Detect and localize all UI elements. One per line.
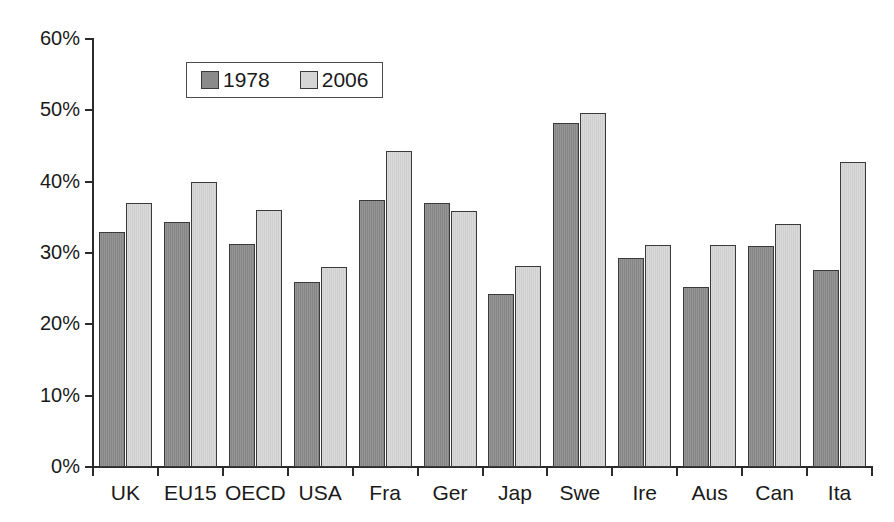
- bar-ire-1978: [618, 258, 644, 467]
- y-axis-tick-mark: [85, 181, 93, 183]
- bar-swe-1978: [553, 123, 579, 467]
- bar-ita-2006: [840, 162, 866, 467]
- x-axis-label-fra: Fra: [353, 481, 418, 505]
- bar-jap-1978: [488, 294, 514, 467]
- bar-oecd-1978: [229, 244, 255, 467]
- y-axis-tick-label: 10%: [40, 385, 80, 405]
- y-axis-tick-label: 60%: [40, 28, 80, 48]
- x-axis-label-oecd: OECD: [223, 481, 288, 505]
- bar-jap-2006: [515, 266, 541, 467]
- y-axis-tick-mark: [85, 109, 93, 111]
- bar-eu15-1978: [164, 222, 190, 467]
- bar-can-2006: [775, 224, 801, 467]
- x-axis-label-ger: Ger: [418, 481, 483, 505]
- bar-eu15-2006: [191, 182, 217, 467]
- bar-aus-1978: [683, 287, 709, 467]
- legend: 1978 2006: [186, 62, 383, 98]
- x-axis-tick-mark: [741, 467, 743, 476]
- bar-aus-2006: [710, 245, 736, 467]
- legend-label-1978: 1978: [223, 69, 270, 91]
- y-axis-tick-label: 0%: [51, 456, 80, 476]
- bar-uk-2006: [126, 203, 152, 467]
- y-axis-tick-label: 50%: [40, 99, 80, 119]
- x-axis-label-ita: Ita: [807, 481, 872, 505]
- y-axis-tick-mark: [85, 38, 93, 40]
- bar-ger-2006: [451, 211, 477, 467]
- legend-entry-1978: 1978: [201, 69, 270, 91]
- x-axis-tick-mark: [806, 467, 808, 476]
- bar-ire-2006: [645, 245, 671, 467]
- x-axis-tick-mark: [92, 467, 94, 476]
- y-axis-tick-mark: [85, 323, 93, 325]
- legend-swatch-icon-2006: [300, 71, 318, 89]
- x-axis-label-aus: Aus: [677, 481, 742, 505]
- x-axis-label-uk: UK: [93, 481, 158, 505]
- y-axis-tick-mark: [85, 395, 93, 397]
- x-axis-tick-mark: [482, 467, 484, 476]
- x-axis-tick-mark: [546, 467, 548, 476]
- bar-swe-2006: [580, 113, 606, 467]
- bar-fra-1978: [359, 200, 385, 468]
- legend-entry-2006: 2006: [300, 69, 369, 91]
- bar-ita-1978: [813, 270, 839, 467]
- bar-fra-2006: [386, 151, 412, 467]
- x-axis-tick-mark: [222, 467, 224, 476]
- plot-area: [93, 39, 872, 467]
- x-axis-label-can: Can: [742, 481, 807, 505]
- bar-can-1978: [748, 246, 774, 467]
- x-axis-label-eu15: EU15: [158, 481, 223, 505]
- x-axis-label-swe: Swe: [547, 481, 612, 505]
- x-axis-label-jap: Jap: [483, 481, 548, 505]
- legend-swatch-icon-1978: [201, 71, 219, 89]
- x-axis-tick-mark: [611, 467, 613, 476]
- bar-oecd-2006: [256, 210, 282, 467]
- y-axis-tick-mark: [85, 252, 93, 254]
- x-axis-tick-mark: [157, 467, 159, 476]
- x-axis-tick-mark: [417, 467, 419, 476]
- bar-usa-1978: [294, 282, 320, 467]
- x-axis-tick-mark: [352, 467, 354, 476]
- y-axis-tick-label: 40%: [40, 171, 80, 191]
- y-axis-tick-label: 20%: [40, 313, 80, 333]
- bar-chart: 0%10%20%30%40%50%60% UKEU15OECDUSAFraGer…: [0, 0, 894, 522]
- y-axis-tick-label: 30%: [40, 242, 80, 262]
- x-axis-tick-mark: [676, 467, 678, 476]
- x-axis-tick-mark: [871, 467, 873, 476]
- legend-label-2006: 2006: [322, 69, 369, 91]
- bar-ger-1978: [424, 203, 450, 467]
- bar-uk-1978: [99, 232, 125, 467]
- x-axis-label-usa: USA: [288, 481, 353, 505]
- x-axis-tick-mark: [287, 467, 289, 476]
- bar-usa-2006: [321, 267, 347, 467]
- x-axis-label-ire: Ire: [612, 481, 677, 505]
